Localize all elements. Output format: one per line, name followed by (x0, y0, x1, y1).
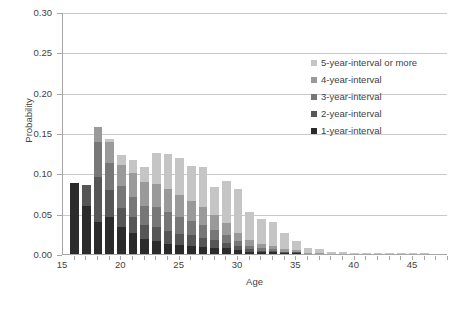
bar-segment (327, 252, 336, 254)
bar-stack (94, 127, 103, 254)
bar-segment (234, 189, 243, 233)
legend-item[interactable]: 1-year-interval (311, 122, 458, 139)
bar-segment (245, 252, 254, 254)
x-axis-tick-mark (144, 256, 145, 260)
bar-stack (187, 166, 196, 254)
x-axis-tick-mark (260, 256, 261, 260)
bar-segment (117, 165, 126, 186)
x-axis-tick-mark (424, 256, 425, 260)
x-axis-tick-mark (214, 256, 215, 260)
bar-segment (199, 247, 208, 254)
legend-item-label: 1-year-interval (321, 125, 382, 136)
bar-stack (280, 233, 289, 254)
y-axis-tick-label: 0.00 (34, 250, 53, 260)
bar-stack (152, 153, 161, 254)
bar-segment (105, 142, 114, 163)
chart-title-sliver (60, 0, 458, 9)
chart-container: 0.000.050.100.150.200.250.30 Probability… (0, 0, 458, 309)
bar-segment (234, 233, 243, 241)
bar-stack (409, 253, 418, 254)
x-axis-tick-label: 25 (173, 259, 184, 270)
bar-stack (315, 249, 324, 254)
bar-segment (199, 207, 208, 225)
x-axis-tick-label: 45 (407, 259, 418, 270)
bar-segment (199, 238, 208, 247)
bar-segment (129, 217, 138, 233)
bar-segment (82, 206, 91, 254)
legend-swatch-icon (311, 94, 317, 100)
bar-segment (315, 253, 324, 254)
bar-segment (292, 253, 301, 254)
x-axis-tick-mark (74, 256, 75, 260)
x-axis-tick-mark (167, 256, 168, 260)
bar-segment (409, 253, 418, 254)
legend-swatch-icon (311, 77, 317, 83)
x-axis-tick-mark (190, 256, 191, 260)
y-axis-tick-label: 0.05 (34, 210, 53, 220)
plot-area: 5-year-interval or more4-year-interval3-… (62, 13, 447, 255)
x-axis-tick-label: 35 (290, 259, 301, 270)
x-axis-tick-mark (284, 256, 285, 260)
bar-segment (117, 208, 126, 227)
bar-stack (245, 212, 254, 254)
bar-segment (117, 227, 126, 254)
bar-segment (94, 177, 103, 222)
bar-segment (140, 182, 149, 205)
x-axis-tick-mark (109, 256, 110, 260)
legend-item[interactable]: 3-year-interval (311, 88, 458, 105)
x-axis-tick-mark (342, 256, 343, 260)
x-axis-tick-mark (97, 256, 98, 260)
bar-segment (164, 154, 173, 189)
bar-segment (70, 183, 79, 254)
bar-stack (350, 253, 359, 254)
bar-stack (222, 181, 231, 254)
bar-segment (117, 186, 126, 208)
bar-segment (385, 253, 394, 254)
bar-segment (292, 241, 301, 250)
bar-segment (105, 217, 114, 254)
y-axis-tick-label: 0.25 (34, 48, 53, 58)
bar-segment (164, 244, 173, 254)
bar-segment (105, 190, 114, 217)
bar-segment (420, 253, 429, 254)
bar-stack (339, 252, 348, 254)
bar-stack (362, 253, 371, 254)
bar-segment (245, 212, 254, 240)
bar-segment (164, 231, 173, 244)
bar-segment (152, 227, 161, 241)
x-axis-tick-label: 40 (348, 259, 359, 270)
legend-item-label: 3-year-interval (321, 91, 382, 102)
x-axis-tick-label: 15 (57, 259, 68, 270)
bar-segment (129, 233, 138, 254)
bar-segment (350, 253, 359, 254)
legend-item[interactable]: 5-year-interval or more (311, 54, 458, 71)
bar-segment (199, 167, 208, 207)
bar-stack (117, 155, 126, 254)
x-axis-tick-mark (400, 256, 401, 260)
legend-item-label: 5-year-interval or more (321, 57, 417, 68)
bar-segment (175, 234, 184, 245)
x-axis-tick-mark (389, 256, 390, 260)
bar-segment (269, 222, 278, 246)
bar-stack (210, 187, 219, 254)
bar-segment (140, 225, 149, 240)
bar-stack (175, 158, 184, 254)
x-axis-tick-mark (307, 256, 308, 260)
bar-segment (210, 240, 219, 247)
bar-stack (105, 139, 114, 254)
bar-stack (70, 183, 79, 254)
x-axis-tick-label: 20 (115, 259, 126, 270)
bar-segment (257, 219, 266, 244)
legend-item[interactable]: 2-year-interval (311, 105, 458, 122)
legend-swatch-icon (311, 128, 317, 134)
y-axis-title: Probability (23, 71, 34, 171)
bar-stack (140, 167, 149, 254)
bar-segment (175, 195, 184, 217)
bar-segment (129, 160, 138, 173)
bar-segment (222, 235, 231, 243)
legend-item[interactable]: 4-year-interval (311, 71, 458, 88)
bar-stack (199, 167, 208, 254)
bar-segment (222, 223, 231, 235)
x-axis-tick-label: 30 (232, 259, 243, 270)
bar-stack (385, 253, 394, 254)
